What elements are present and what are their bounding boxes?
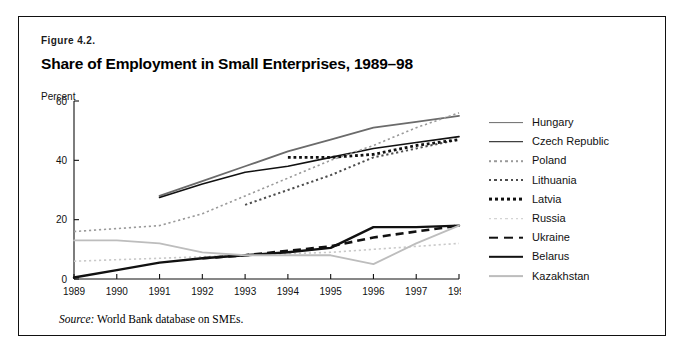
chart-tick-labels: 0204060198919901991199219931994199519961… (56, 96, 461, 297)
legend-swatch-icon (489, 193, 523, 205)
svg-text:1991: 1991 (148, 286, 171, 297)
legend-item-latvia[interactable]: Latvia (489, 190, 649, 209)
legend-swatch-icon (489, 213, 523, 225)
svg-text:1997: 1997 (405, 286, 428, 297)
series-line-kazakhstan (74, 226, 459, 265)
legend-item-poland[interactable]: Poland (489, 151, 649, 170)
legend-swatch-icon (489, 155, 523, 167)
legend-swatch-icon (489, 117, 523, 129)
legend-swatch-icon (489, 232, 523, 244)
legend-item-label: Czech Republic (532, 136, 609, 147)
svg-text:60: 60 (56, 96, 68, 107)
legend-item-label: Lithuania (532, 175, 577, 186)
figure-number: Figure 4.2. (41, 35, 95, 46)
figure-number-text: Figure 4.2. (41, 35, 95, 46)
legend-item-label: Kazakhstan (532, 271, 589, 282)
svg-text:1996: 1996 (362, 286, 385, 297)
svg-text:1992: 1992 (191, 286, 214, 297)
legend-item-kazakhstan[interactable]: Kazakhstan (489, 267, 649, 286)
legend-item-label: Poland (532, 155, 566, 166)
source-text: World Bank database on SMEs. (94, 313, 243, 325)
chart-legend: HungaryCzech RepublicPolandLithuaniaLatv… (489, 113, 649, 286)
series-line-russia (74, 243, 459, 261)
legend-swatch-icon (489, 174, 523, 186)
legend-swatch-icon (489, 136, 523, 148)
svg-text:1990: 1990 (106, 286, 129, 297)
figure-card: Figure 4.2. Share of Employment in Small… (18, 16, 666, 336)
legend-item-czech-republic[interactable]: Czech Republic (489, 132, 649, 151)
svg-text:1994: 1994 (277, 286, 300, 297)
legend-item-label: Ukraine (532, 232, 570, 243)
legend-swatch-icon (489, 270, 523, 282)
source-note: Source: World Bank database on SMEs. (59, 313, 243, 325)
source-label: Source: (59, 313, 94, 325)
legend-item-ukraine[interactable]: Ukraine (489, 228, 649, 247)
svg-text:20: 20 (56, 214, 68, 225)
svg-text:1998: 1998 (448, 286, 461, 297)
svg-text:40: 40 (56, 155, 68, 166)
chart-plot-area: 0204060198919901991199219931994199519961… (41, 87, 461, 302)
series-line-lithuania (245, 140, 459, 205)
legend-item-label: Belarus (532, 251, 569, 262)
chart-axes (74, 101, 459, 279)
legend-item-russia[interactable]: Russia (489, 209, 649, 228)
svg-text:1995: 1995 (320, 286, 343, 297)
legend-item-lithuania[interactable]: Lithuania (489, 171, 649, 190)
legend-item-belarus[interactable]: Belarus (489, 247, 649, 266)
chart-series (74, 113, 459, 278)
svg-text:0: 0 (61, 274, 67, 285)
svg-text:1989: 1989 (63, 286, 86, 297)
legend-item-label: Hungary (532, 117, 574, 128)
legend-swatch-icon (489, 251, 523, 263)
series-line-poland (74, 113, 459, 232)
legend-item-label: Russia (532, 213, 566, 224)
svg-text:1993: 1993 (234, 286, 257, 297)
page-title: Share of Employment in Small Enterprises… (41, 55, 413, 73)
legend-item-hungary[interactable]: Hungary (489, 113, 649, 132)
line-chart-svg: 0204060198919901991199219931994199519961… (41, 87, 461, 302)
legend-item-label: Latvia (532, 194, 561, 205)
